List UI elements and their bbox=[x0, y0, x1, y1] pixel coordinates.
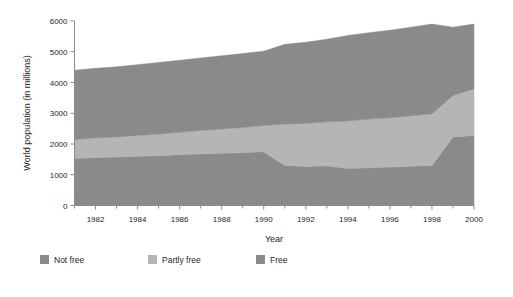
x-tick-label: 1988 bbox=[213, 215, 231, 224]
x-tick-label: 1996 bbox=[381, 215, 399, 224]
legend-label: Not free bbox=[54, 255, 85, 265]
x-tick-label: 2000 bbox=[465, 215, 483, 224]
y-tick-label: 6000 bbox=[50, 17, 68, 26]
y-tick-label: 0 bbox=[63, 202, 68, 211]
x-tick-label: 1986 bbox=[171, 215, 189, 224]
x-tick-label: 1994 bbox=[339, 215, 357, 224]
y-tick-label: 4000 bbox=[50, 79, 68, 88]
x-tick-label: 1992 bbox=[297, 215, 315, 224]
y-tick-label: 2000 bbox=[50, 140, 68, 149]
legend-swatch bbox=[148, 255, 157, 264]
x-tick-label: 1984 bbox=[129, 215, 147, 224]
legend-item-not-free: Not free bbox=[40, 255, 85, 265]
legend-swatch bbox=[40, 255, 49, 264]
legend-item-partly-free: Partly free bbox=[148, 255, 201, 265]
y-axis-title: World population (in millions) bbox=[22, 55, 32, 170]
x-tick-label: 1998 bbox=[423, 215, 441, 224]
y-tick-label: 1000 bbox=[50, 171, 68, 180]
legend-swatch bbox=[256, 255, 265, 264]
legend-label: Free bbox=[270, 255, 288, 265]
y-tick-label: 3000 bbox=[50, 109, 68, 118]
x-tick-label: 1990 bbox=[255, 215, 273, 224]
legend-item-free: Free bbox=[256, 255, 288, 265]
x-axis-title: Year bbox=[265, 234, 283, 244]
y-tick-label: 5000 bbox=[50, 48, 68, 57]
x-tick-label: 1982 bbox=[87, 215, 105, 224]
world-population-freedom-area-chart: 0100020003000400050006000 19821984198619… bbox=[0, 0, 513, 297]
legend-label: Partly free bbox=[162, 255, 201, 265]
